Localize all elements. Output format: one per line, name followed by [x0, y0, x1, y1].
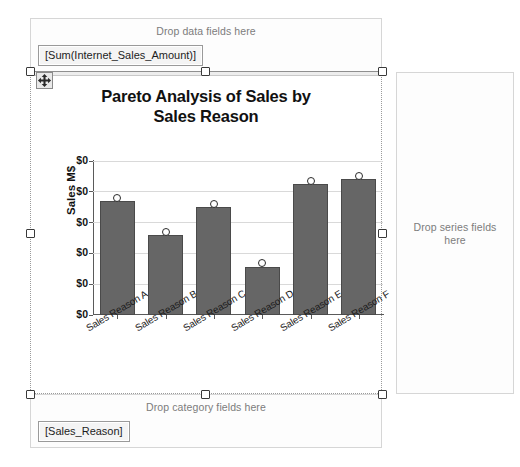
report-designer-canvas: Drop data fields here [Sum(Internet_Sale… — [0, 0, 520, 467]
plot-area: $0$0$0$0$0$0Sales Reason ASales Reason B… — [93, 161, 383, 315]
y-tick-mark — [89, 253, 93, 254]
resize-handle-top-center[interactable] — [201, 67, 210, 76]
gridline — [93, 222, 383, 223]
y-tick-mark — [89, 284, 93, 285]
chart-object[interactable]: Pareto Analysis of Sales by Sales Reason… — [30, 71, 382, 394]
y-tick-label: $0 — [76, 246, 88, 258]
y-tick-mark — [89, 315, 93, 316]
y-axis-line — [93, 160, 94, 315]
resize-handle-bottom-right[interactable] — [378, 390, 387, 399]
bar[interactable] — [293, 184, 328, 315]
data-fields-dropzone-label: Drop data fields here — [31, 25, 381, 37]
gridline — [93, 191, 383, 192]
category-field-pill[interactable]: [Sales_Reason] — [38, 421, 130, 442]
gridline — [93, 161, 383, 162]
data-point-marker[interactable] — [258, 259, 266, 267]
series-fields-dropzone[interactable]: Drop series fields here — [396, 72, 514, 394]
chart-title-line2: Sales Reason — [154, 107, 259, 125]
y-tick-mark — [89, 161, 93, 162]
resize-handle-middle-right[interactable] — [378, 229, 387, 238]
y-tick-mark — [89, 191, 93, 192]
gridline — [93, 284, 383, 285]
bar[interactable] — [341, 179, 376, 315]
data-field-pill[interactable]: [Sum(Internet_Sales_Amount)] — [38, 45, 203, 66]
resize-handle-middle-left[interactable] — [26, 229, 35, 238]
resize-handle-top-left[interactable] — [26, 67, 35, 76]
series-fields-dropzone-label: Drop series fields here — [403, 221, 507, 247]
resize-handle-bottom-center[interactable] — [201, 390, 210, 399]
y-tick-label: $0 — [76, 185, 88, 197]
y-axis-title: Sales M$ — [65, 166, 77, 215]
y-tick-label: $0 — [76, 154, 88, 166]
y-tick-label: $0 — [76, 277, 88, 289]
gridline — [93, 253, 383, 254]
y-tick-label: $0 — [76, 216, 88, 228]
data-point-marker[interactable] — [210, 200, 218, 208]
chart-title-line1: Pareto Analysis of Sales by — [101, 87, 311, 105]
resize-handle-bottom-left[interactable] — [26, 390, 35, 399]
y-tick-mark — [89, 222, 93, 223]
category-fields-dropzone-label: Drop category fields here — [31, 401, 381, 413]
chart-title: Pareto Analysis of Sales by Sales Reason — [41, 86, 371, 126]
move-4-way-arrow-icon[interactable] — [36, 72, 53, 89]
data-point-marker[interactable] — [162, 228, 170, 236]
data-point-marker[interactable] — [307, 177, 315, 185]
y-tick-label: $0 — [76, 308, 88, 320]
resize-handle-top-right[interactable] — [378, 67, 387, 76]
